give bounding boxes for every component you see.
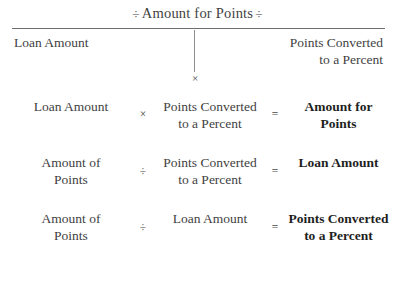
- title-suffix-division-icon: ÷: [253, 6, 265, 21]
- equation-operand-a: Loan Amount: [12, 98, 130, 115]
- equation-operator-icon: ×: [130, 98, 156, 123]
- result-line2: to a Percent: [286, 227, 391, 244]
- equation-row: Loan Amount × Points Converted to a Perc…: [0, 98, 395, 154]
- operand-b-line2: to a Percent: [156, 171, 264, 188]
- equation-equals-icon: =: [264, 154, 286, 180]
- title-text: Amount for Points: [142, 5, 253, 21]
- operand-b-line1: Points Converted: [156, 98, 264, 115]
- equation-operand-a: Amount of Points: [12, 210, 130, 244]
- equation-list: Loan Amount × Points Converted to a Perc…: [0, 98, 395, 266]
- header-left-term: Loan Amount: [14, 34, 184, 51]
- result-line1: Amount for: [286, 98, 391, 115]
- operand-a-line1: Loan Amount: [12, 98, 130, 115]
- operand-a-line2: Points: [12, 171, 130, 188]
- header-vertical-divider: [194, 30, 195, 72]
- operand-b-line1: Loan Amount: [156, 210, 264, 227]
- formula-header: ÷Amount for Points÷ Loan Amount Points C…: [0, 0, 395, 92]
- result-line2: Points: [286, 115, 391, 132]
- operand-a-line2: Points: [12, 227, 130, 244]
- header-multiply-icon: ×: [182, 72, 208, 84]
- equation-row: Amount of Points ÷ Points Converted to a…: [0, 154, 395, 210]
- equation-operator-icon: ÷: [130, 210, 156, 236]
- equation-result: Points Converted to a Percent: [286, 210, 391, 244]
- operand-b-line2: to a Percent: [156, 115, 264, 132]
- equation-operator-icon: ÷: [130, 154, 156, 180]
- operand-a-line1: Amount of: [12, 154, 130, 171]
- header-right-term-line1: Points Converted: [208, 34, 383, 51]
- operand-b-line1: Points Converted: [156, 154, 264, 171]
- equation-equals-icon: =: [264, 98, 286, 123]
- equation-result: Amount for Points: [286, 98, 391, 132]
- equation-operand-b: Points Converted to a Percent: [156, 98, 264, 132]
- header-left-term-label: Loan Amount: [14, 35, 89, 50]
- equation-row: Amount of Points ÷ Loan Amount = Points …: [0, 210, 395, 266]
- header-right-term-line2: to a Percent: [208, 51, 383, 68]
- header-right-term: Points Converted to a Percent: [208, 34, 383, 68]
- result-line1: Points Converted: [286, 210, 391, 227]
- equation-equals-icon: =: [264, 210, 286, 236]
- formula-diagram: ÷Amount for Points÷ Loan Amount Points C…: [0, 0, 395, 282]
- diagram-title: ÷Amount for Points÷: [0, 5, 395, 22]
- title-prefix-division-icon: ÷: [130, 6, 142, 21]
- equation-operand-b: Loan Amount: [156, 210, 264, 227]
- equation-operand-b: Points Converted to a Percent: [156, 154, 264, 188]
- equation-result: Loan Amount: [286, 154, 391, 171]
- operand-a-line1: Amount of: [12, 210, 130, 227]
- equation-operand-a: Amount of Points: [12, 154, 130, 188]
- result-line1: Loan Amount: [286, 154, 391, 171]
- header-horizontal-rule: [12, 28, 385, 29]
